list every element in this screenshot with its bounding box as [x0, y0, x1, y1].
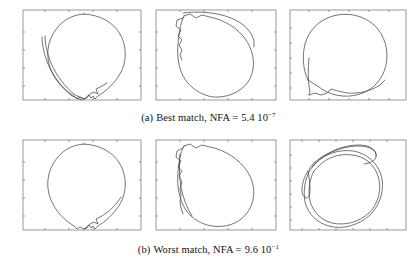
caption-a-mantissa: 5.4 10 — [241, 112, 268, 123]
panel-strip-b — [0, 130, 417, 242]
axis-ticks-b-2 — [156, 140, 276, 230]
axis-frame-b-1 — [23, 140, 141, 230]
tail-right-long — [84, 197, 121, 229]
plot-svg-a-1 — [14, 6, 146, 110]
contour-curves-b-2 — [176, 144, 254, 226]
contour-curves-a-2 — [176, 12, 254, 97]
axis-frame-b-3 — [290, 140, 406, 230]
tail-lower — [309, 80, 385, 95]
main-contour — [178, 14, 254, 97]
contour-curves-a-1 — [42, 14, 125, 100]
main-contour — [178, 144, 254, 226]
figure-row-b: (b)Worst match, NFA=9.6 10−1 — [0, 130, 417, 267]
figure-root: (a)Best match, NFA=5.4 10−7 — [0, 0, 417, 267]
plot-svg-a-2 — [146, 6, 282, 110]
caption-row-a: (a)Best match, NFA=5.4 10−7 — [0, 112, 417, 123]
axis-frame-a-1 — [23, 10, 141, 100]
figure-row-a: (a)Best match, NFA=5.4 10−7 — [0, 0, 417, 131]
main-contour — [48, 14, 126, 99]
axis-ticks-a-2 — [156, 10, 276, 100]
contour-curves-b-1 — [48, 144, 126, 229]
main-contour — [303, 14, 387, 96]
plot-svg-b-3 — [281, 136, 411, 240]
contour-curves-b-3 — [302, 145, 383, 227]
plot-svg-b-1 — [14, 136, 146, 240]
plot-panel-b-2 — [146, 136, 282, 240]
caption-a-exponent: −7 — [268, 111, 276, 119]
main-contour — [48, 144, 126, 229]
caption-a-text: Best match, NFA — [156, 112, 230, 123]
jag-left-edge — [176, 18, 183, 60]
axis-ticks-b-1 — [23, 140, 141, 230]
plot-panel-b-3 — [281, 136, 411, 240]
axis-frame-a-3 — [290, 10, 406, 100]
plot-svg-b-2 — [146, 136, 282, 240]
axis-frame-a-2 — [156, 10, 276, 100]
caption-b-mantissa: 9.6 10 — [245, 244, 272, 255]
tail-right — [84, 83, 107, 99]
plot-panel-a-2 — [146, 6, 282, 110]
caption-b-equals: = — [236, 244, 242, 255]
axis-ticks-a-3 — [290, 10, 389, 100]
axis-ticks-a-1 — [23, 10, 141, 100]
caption-b-exponent: −1 — [271, 243, 279, 251]
plot-svg-a-3 — [281, 6, 411, 110]
caption-row-b: (b)Worst match, NFA=9.6 10−1 — [0, 244, 417, 255]
plot-panel-b-1 — [14, 136, 146, 240]
plot-panel-a-3 — [281, 6, 411, 110]
caption-a-tag: (a) — [141, 112, 153, 123]
panel-strip-a — [0, 0, 417, 112]
plot-panel-a-1 — [14, 6, 146, 110]
caption-b-text: Worst match, NFA — [153, 244, 233, 255]
axis-frame-b-2 — [156, 140, 276, 230]
tail-left-outer — [42, 37, 82, 100]
tail-upper — [183, 12, 254, 47]
caption-a-equals: = — [232, 112, 238, 123]
loop-upper-left-a — [312, 146, 376, 167]
contour-inner — [309, 155, 380, 224]
caption-b-tag: (b) — [138, 244, 151, 255]
contour-curves-a-3 — [303, 14, 387, 96]
tail-spike — [308, 58, 310, 95]
